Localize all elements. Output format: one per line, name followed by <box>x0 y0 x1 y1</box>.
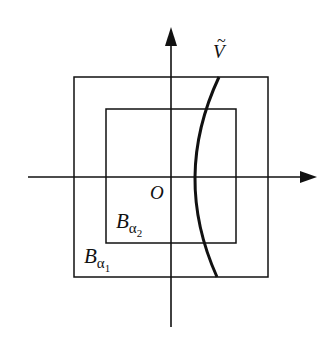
inner-set-alpha: α <box>129 220 137 236</box>
inner-set-label-base: B <box>116 209 129 233</box>
curve-label-v-tilde: ~ V <box>213 42 225 61</box>
tilde-accent: ~ <box>217 33 226 49</box>
x-axis-arrow-icon <box>300 171 317 183</box>
outer-set-alpha: α <box>97 255 105 271</box>
origin-label: O <box>150 183 164 202</box>
outer-set-label: Bα1 <box>84 246 110 267</box>
outer-set-index: 1 <box>105 262 111 274</box>
outer-set-label-sub: α1 <box>97 255 110 271</box>
inner-set-label-sub: α2 <box>129 220 142 236</box>
inner-set-label: Bα2 <box>116 211 142 232</box>
inner-set-index: 2 <box>137 227 143 239</box>
origin-label-text: O <box>150 182 164 203</box>
y-axis-arrow-icon <box>165 27 177 46</box>
outer-set-label-base: B <box>84 244 97 268</box>
diagram-canvas <box>0 0 335 361</box>
